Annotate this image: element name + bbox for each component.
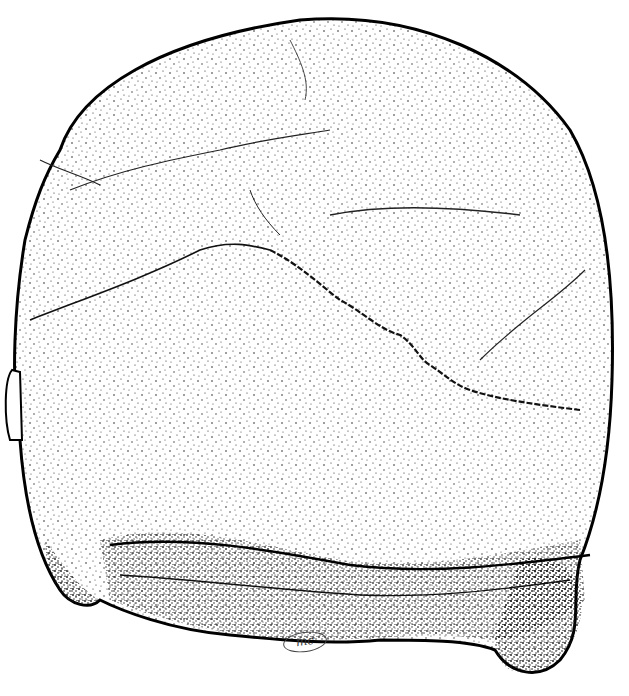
left-mastoid — [6, 370, 22, 440]
skull-drawing — [0, 0, 629, 696]
